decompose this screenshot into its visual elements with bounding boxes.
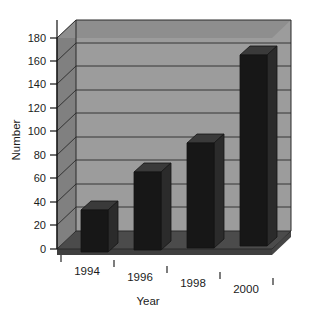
bar-1998[interactable] — [187, 134, 224, 248]
x-axis-title: Year — [136, 295, 159, 307]
ytick-label-120: 120 — [28, 102, 46, 114]
xtick-label-2000: 2000 — [233, 283, 259, 295]
y-axis-ticks — [50, 38, 57, 249]
ytick-label-20: 20 — [34, 219, 46, 231]
ytick-label-0: 0 — [40, 243, 46, 255]
ytick-label-80: 80 — [34, 149, 46, 161]
y-axis-tick-labels: 0 20 40 60 80 100 120 140 160 180 — [28, 32, 46, 255]
bar-2000-side — [267, 46, 277, 246]
xtick-label-1998: 1998 — [180, 277, 206, 289]
bar-1998-front — [187, 143, 214, 248]
bar-1996-side — [161, 163, 171, 250]
bar-2000[interactable] — [240, 46, 277, 246]
ytick-label-40: 40 — [34, 196, 46, 208]
ytick-label-60: 60 — [34, 172, 46, 184]
chart-canvas: 0 20 40 60 80 100 120 140 160 180 Number — [0, 0, 317, 313]
bar-1994-front — [81, 210, 108, 252]
wall-top-cap — [57, 20, 291, 38]
bar-1994-side — [108, 201, 118, 252]
left-side-wall — [57, 20, 76, 249]
y-axis-title: Number — [10, 119, 22, 160]
y-axis: 0 20 40 60 80 100 120 140 160 180 Number — [10, 20, 57, 255]
ytick-label-100: 100 — [28, 125, 46, 137]
ytick-label-160: 160 — [28, 55, 46, 67]
xtick-label-1994: 1994 — [74, 265, 100, 277]
ytick-label-180: 180 — [28, 32, 46, 44]
bar-1996-front — [134, 172, 161, 250]
bar-2000-front — [240, 55, 267, 246]
xtick-label-1996: 1996 — [127, 271, 153, 283]
ytick-label-140: 140 — [28, 78, 46, 90]
x-axis: 1994 1996 1998 2000 Year — [61, 255, 273, 307]
bar-chart-figure: 0 20 40 60 80 100 120 140 160 180 Number — [0, 0, 317, 313]
bar-1996[interactable] — [134, 163, 171, 250]
bar-1998-side — [214, 134, 224, 248]
bar-1994[interactable] — [81, 201, 118, 252]
